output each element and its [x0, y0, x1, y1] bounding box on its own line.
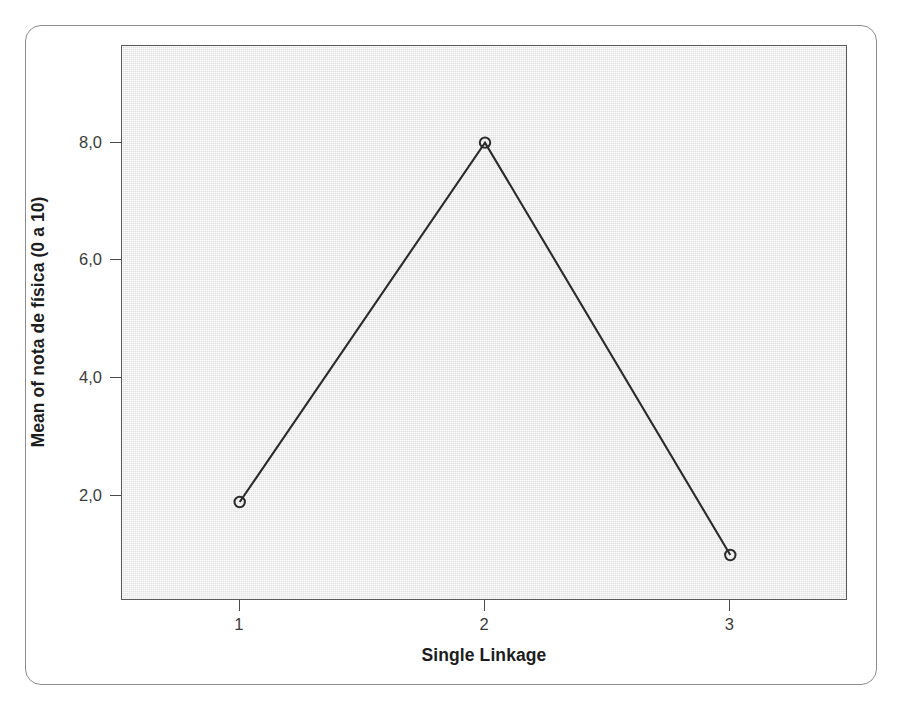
x-tick-mark	[239, 600, 240, 611]
x-tick-label: 1	[219, 615, 259, 634]
y-tick-label: 6,0	[40, 250, 102, 269]
series-markers	[235, 137, 736, 560]
x-tick-label: 3	[709, 615, 749, 634]
y-tick-label: 8,0	[40, 132, 102, 151]
y-tick-mark	[110, 495, 121, 496]
data-series-layer	[122, 46, 847, 600]
y-tick-mark	[110, 259, 121, 260]
x-tick-mark	[484, 600, 485, 611]
y-tick-mark	[110, 377, 121, 378]
line-chart: 2,04,06,08,0 123 Mean of nota de física …	[0, 0, 899, 705]
y-tick-label: 2,0	[40, 486, 102, 505]
y-tick-label: 4,0	[40, 368, 102, 387]
x-tick-mark	[729, 600, 730, 611]
y-axis-title: Mean of nota de física (0 a 10)	[28, 196, 49, 447]
y-tick-mark	[110, 142, 121, 143]
x-tick-label: 2	[464, 615, 504, 634]
plot-area	[121, 45, 847, 600]
series-line	[240, 143, 731, 555]
x-axis-title: Single Linkage	[121, 645, 847, 666]
